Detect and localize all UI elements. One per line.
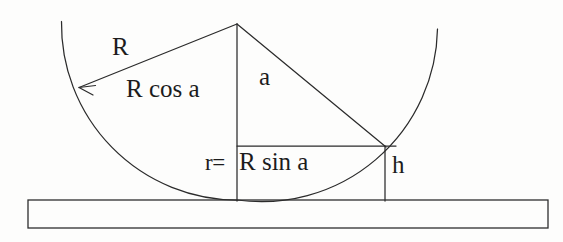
label-r-prefix: r= [205, 151, 225, 174]
geometry-diagram: R R cos a a r= R sin a h [0, 0, 563, 242]
label-angle-a: a [259, 64, 270, 89]
label-r-sin-a: R sin a [239, 149, 308, 174]
label-radius: R [112, 34, 129, 59]
figure-canvas [0, 0, 563, 242]
label-height-h: h [392, 152, 405, 177]
arrow-head-icon [79, 86, 96, 96]
label-radius-cos-a: R cos a [126, 76, 200, 101]
base-slab-rectangle [28, 200, 548, 228]
